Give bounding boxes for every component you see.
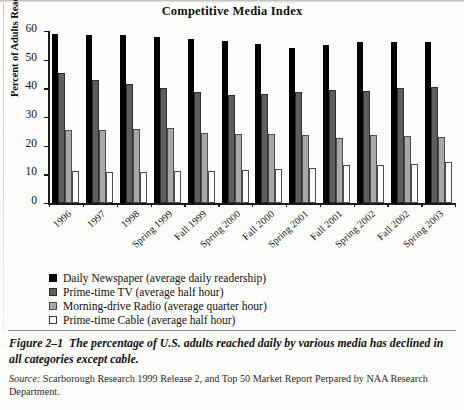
bar [106, 172, 113, 203]
y-tick-label: 40 [26, 80, 38, 92]
figure-number: Figure 2–1 [9, 336, 63, 350]
y-tick-label: 50 [26, 52, 38, 64]
bar [438, 137, 445, 204]
bar [167, 128, 174, 203]
source-label: Source: [9, 373, 40, 384]
bar [411, 164, 418, 203]
y-tick-label: 60 [26, 23, 38, 35]
bar-group [218, 31, 252, 203]
bar [201, 133, 208, 203]
bar-group [49, 31, 83, 203]
bar [363, 91, 370, 203]
bar [431, 87, 438, 203]
x-label-cell: Spring 2003 [421, 206, 455, 266]
bar [404, 136, 411, 203]
bar [235, 134, 242, 203]
bar [336, 138, 343, 203]
bar [370, 135, 377, 203]
x-label-cell: 1996 [49, 206, 83, 266]
x-axis-label: 1997 [85, 208, 108, 230]
bar [268, 134, 275, 203]
bar [133, 129, 140, 203]
bar [208, 171, 215, 203]
figure-source: Source: Scarborough Research 1999 Releas… [9, 372, 455, 399]
bar [72, 171, 79, 203]
legend-swatch-icon [49, 274, 57, 282]
legend-swatch-icon [49, 288, 57, 296]
legend-item: Morning-drive Radio (average quarter hou… [49, 299, 379, 313]
bar [377, 165, 384, 203]
y-tick-label: 10 [26, 166, 38, 178]
bar-group [421, 31, 455, 203]
bar-group [117, 31, 151, 203]
legend-label: Morning-drive Radio (average quarter hou… [63, 300, 267, 312]
bar [445, 162, 452, 203]
bar [302, 135, 309, 203]
legend-label: Prime-time Cable (average half hour) [63, 314, 235, 326]
bar-group [286, 31, 320, 203]
bar [58, 73, 65, 203]
bar-group [387, 31, 421, 203]
bar-groups [49, 31, 455, 203]
chart-title: Competitive Media Index [0, 4, 464, 19]
bar [261, 94, 268, 203]
legend-swatch-icon [49, 302, 57, 310]
source-text: Scarborough Research 1999 Release 2, and… [9, 373, 428, 397]
legend-swatch-icon [49, 316, 57, 324]
figure-caption-text: The percentage of U.S. adults reached da… [9, 336, 443, 366]
legend-item: Daily Newspaper (average daily readershi… [49, 271, 379, 285]
chart-figure: Competitive Media Index Percent of Adult… [0, 0, 464, 332]
legend-label: Daily Newspaper (average daily readershi… [63, 272, 266, 284]
bar [242, 170, 249, 203]
legend-item: Prime-time TV (average half hour) [49, 285, 379, 299]
bar [343, 165, 350, 203]
bar [174, 171, 181, 203]
bar-group [252, 31, 286, 203]
x-tick [455, 203, 456, 207]
bar [160, 88, 167, 203]
bar-group [150, 31, 184, 203]
x-label-cell: 1997 [83, 206, 117, 266]
y-tick-label: 30 [26, 109, 38, 121]
bar [228, 95, 235, 203]
bar [194, 92, 201, 203]
y-tick-label: 20 [26, 138, 38, 150]
x-axis-labels: 199619971998Spring 1999Fall 1999Spring 2… [49, 206, 455, 266]
bar [65, 130, 72, 203]
bar [397, 88, 404, 203]
caption-divider [8, 330, 456, 331]
bar [275, 169, 282, 203]
bar [126, 84, 133, 203]
x-axis-label: 1998 [118, 208, 141, 230]
figure-page: Competitive Media Index Percent of Adult… [0, 0, 464, 410]
bar [329, 90, 336, 203]
bar [309, 168, 316, 203]
legend-label: Prime-time TV (average half hour) [63, 286, 224, 298]
bar-group [320, 31, 354, 203]
legend-item: Prime-time Cable (average half hour) [49, 313, 379, 327]
bar [99, 130, 106, 203]
y-axis-title: Percent of Adults Reached [9, 0, 20, 124]
figure-caption-block: Figure 2–1The percentage of U.S. adults … [9, 336, 455, 399]
x-axis-label: 1996 [51, 208, 74, 230]
y-tick-label: 0 [31, 195, 37, 207]
bar [140, 172, 147, 203]
figure-caption: Figure 2–1The percentage of U.S. adults … [9, 336, 455, 367]
bar-group [184, 31, 218, 203]
chart-legend: Daily Newspaper (average daily readershi… [49, 271, 379, 327]
plot-area: 0102030405060 [49, 31, 455, 203]
bar [92, 80, 99, 203]
bar-group [83, 31, 117, 203]
bar [295, 92, 302, 203]
bar-group [353, 31, 387, 203]
